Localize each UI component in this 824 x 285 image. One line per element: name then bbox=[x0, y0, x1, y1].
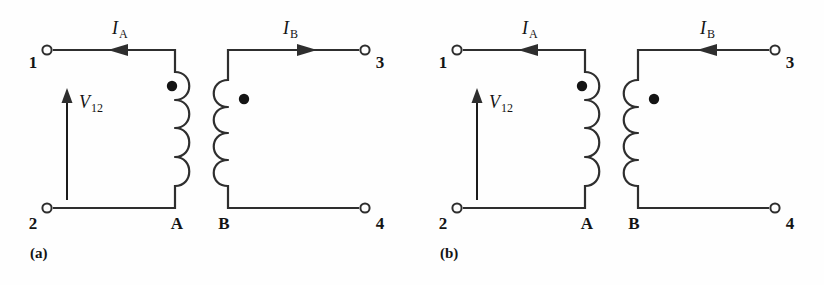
label-node-b-b: B bbox=[628, 214, 639, 233]
label-terminal-1-a: 1 bbox=[29, 53, 38, 72]
label-voltage-v12-a: V12 bbox=[79, 92, 103, 115]
dot-secondary-a bbox=[239, 94, 249, 104]
current-ib-arrow-b bbox=[697, 44, 717, 56]
coil-primary-b bbox=[585, 72, 599, 186]
wire-primary-bottom-a bbox=[54, 186, 175, 208]
dot-secondary-b bbox=[649, 94, 659, 104]
label-current-ib-symbol-b: I bbox=[699, 18, 707, 38]
label-terminal-3-a: 3 bbox=[376, 53, 385, 72]
label-voltage-v12-subscript-b: 12 bbox=[501, 101, 513, 115]
wire-secondary-top-a bbox=[228, 50, 358, 80]
label-voltage-v12-subscript-a: 12 bbox=[91, 101, 103, 115]
label-current-ib-subscript-a: B bbox=[290, 27, 298, 41]
label-voltage-v12-b: V12 bbox=[489, 92, 513, 115]
label-current-ia-symbol-a: I bbox=[111, 18, 119, 38]
wire-secondary-top-b bbox=[638, 50, 768, 80]
label-current-ib-subscript-b: B bbox=[707, 27, 715, 41]
panel-b: 1 2 3 4 A B IA IB V12 (b) bbox=[439, 18, 795, 262]
label-current-ia-b: IA bbox=[521, 18, 538, 41]
coil-secondary-b bbox=[624, 80, 638, 186]
label-terminal-2-b: 2 bbox=[439, 214, 448, 233]
wire-primary-top-a bbox=[54, 50, 175, 72]
label-terminal-1-b: 1 bbox=[439, 53, 448, 72]
caption-panel-a: (a) bbox=[30, 245, 48, 262]
current-ia-arrow-b bbox=[518, 44, 538, 56]
current-ia-arrow-a bbox=[108, 44, 128, 56]
terminal-2-a[interactable] bbox=[42, 203, 51, 212]
label-current-ia-subscript-a: A bbox=[119, 27, 128, 41]
wire-secondary-bottom-b bbox=[638, 186, 768, 208]
wire-primary-bottom-b bbox=[464, 186, 585, 208]
caption-panel-b: (b) bbox=[440, 245, 458, 262]
terminal-2-b[interactable] bbox=[452, 203, 461, 212]
label-node-a-b: A bbox=[581, 214, 594, 233]
coil-secondary-a bbox=[214, 80, 228, 186]
circuit-canvas: 1 2 3 4 A B IA IB V12 (a) bbox=[0, 0, 824, 285]
terminal-1-a[interactable] bbox=[42, 45, 51, 54]
dot-primary-b bbox=[577, 81, 587, 91]
wire-secondary-bottom-a bbox=[228, 186, 358, 208]
current-ib-arrow-a bbox=[297, 44, 317, 56]
voltage-v12-arrow-a bbox=[62, 88, 73, 103]
label-current-ia-subscript-b: A bbox=[529, 27, 538, 41]
label-terminal-4-a: 4 bbox=[376, 214, 385, 233]
label-terminal-3-b: 3 bbox=[786, 53, 795, 72]
label-current-ia-a: IA bbox=[111, 18, 128, 41]
label-current-ib-a: IB bbox=[282, 18, 298, 41]
panel-a: 1 2 3 4 A B IA IB V12 (a) bbox=[29, 18, 385, 262]
wire-primary-top-b bbox=[464, 50, 585, 72]
voltage-v12-arrow-b bbox=[472, 88, 483, 103]
label-current-ib-b: IB bbox=[699, 18, 715, 41]
terminal-4-a[interactable] bbox=[360, 203, 369, 212]
terminal-3-a[interactable] bbox=[360, 45, 369, 54]
terminal-4-b[interactable] bbox=[770, 203, 779, 212]
circuit-figure: 1 2 3 4 A B IA IB V12 (a) bbox=[0, 0, 824, 285]
label-node-b-a: B bbox=[218, 214, 229, 233]
coil-primary-a bbox=[175, 72, 189, 186]
label-current-ib-symbol-a: I bbox=[282, 18, 290, 38]
label-node-a-a: A bbox=[171, 214, 184, 233]
label-current-ia-symbol-b: I bbox=[521, 18, 529, 38]
label-terminal-4-b: 4 bbox=[786, 214, 795, 233]
dot-primary-a bbox=[167, 81, 177, 91]
terminal-1-b[interactable] bbox=[452, 45, 461, 54]
terminal-3-b[interactable] bbox=[770, 45, 779, 54]
label-terminal-2-a: 2 bbox=[29, 214, 38, 233]
